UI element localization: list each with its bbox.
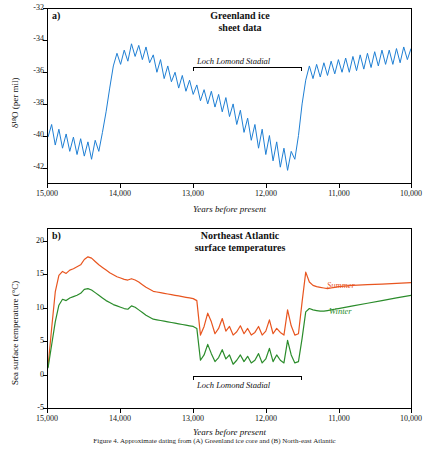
summer-temperature-line <box>48 257 411 367</box>
panel-b-ytick-2: 10 <box>18 303 44 312</box>
ice-core-line <box>48 44 411 171</box>
panel-a-ytick-0: -32 <box>18 3 44 12</box>
panel-b-ytick-0: 20 <box>18 236 44 245</box>
panel-b-xlabel: Years before present <box>47 427 412 437</box>
panel-a-ytick-5: -42 <box>18 162 44 171</box>
panel-b-xtick-1: 14,000 <box>100 414 140 423</box>
panel-a-xtick-1: 14,000 <box>100 189 140 198</box>
panel-a-data-layer <box>48 9 411 183</box>
panel-b-data-layer <box>48 229 411 408</box>
panel-a-xtick-3: 12,000 <box>246 189 286 198</box>
panel-b-ytick-3: 5 <box>18 336 44 345</box>
panel-a-ytick-1: -34 <box>18 34 44 43</box>
panel-greenland-ice: a) Greenland ice sheet data δ¹⁸O (per mi… <box>0 0 429 222</box>
panel-a-xtick-5: 10,000 <box>391 189 429 198</box>
panel-a-xtick-0: 15,000 <box>27 189 67 198</box>
panel-b-xtick-5: 10,000 <box>391 414 429 423</box>
panel-sea-surface-temperature: b) Northeast Atlantic surface temperatur… <box>0 222 429 437</box>
panel-b-xtick-4: 11,000 <box>319 414 359 423</box>
panel-a-ytick-3: -38 <box>18 98 44 107</box>
panel-a-xtick-2: 13,000 <box>173 189 213 198</box>
panel-a-ytick-4: -40 <box>18 130 44 139</box>
panel-a-xlabel: Years before present <box>47 204 412 214</box>
panel-b-xtick-0: 15,000 <box>27 414 67 423</box>
panel-b-ytick-5: -5 <box>18 403 44 412</box>
panel-a-ytick-2: -36 <box>18 66 44 75</box>
figure-caption: Figure 4. Approximate dating from (A) Gr… <box>0 437 429 445</box>
panel-a-xtick-4: 11,000 <box>319 189 359 198</box>
panel-b-ytick-1: 15 <box>18 269 44 278</box>
panel-b-ytick-4: 0 <box>18 370 44 379</box>
panel-b-xtick-3: 12,000 <box>246 414 286 423</box>
winter-temperature-line <box>48 289 411 369</box>
figure-root: a) Greenland ice sheet data δ¹⁸O (per mi… <box>0 0 429 451</box>
panel-b-xtick-2: 13,000 <box>173 414 213 423</box>
